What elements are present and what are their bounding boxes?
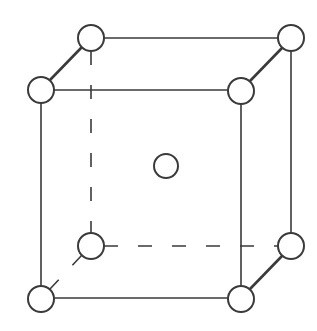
atom-front-top-right-icon — [228, 78, 254, 104]
atom-back-top-left-icon — [78, 25, 104, 51]
atom-back-top-right-icon — [278, 25, 304, 51]
cube-lattice-figure — [0, 0, 317, 331]
atom-front-top-left-icon — [28, 77, 54, 103]
atom-back-bottom-right-icon — [278, 233, 304, 259]
atom-front-bottom-right-icon — [228, 286, 254, 312]
atom-front-bottom-left-icon — [28, 286, 54, 312]
atom-body-center-icon — [154, 154, 178, 178]
depth-edge-top-right-depth — [250, 48, 282, 81]
depth-edge-top-left-depth — [50, 47, 82, 80]
depth-edge-bottom-right-depth — [250, 256, 282, 289]
atom-back-bottom-left-icon — [78, 233, 104, 259]
bcc-unit-cell-diagram: Body-centered cubic unit cell — [0, 0, 317, 331]
hidden-edge-bottom-left-depth-hidden — [50, 255, 82, 289]
